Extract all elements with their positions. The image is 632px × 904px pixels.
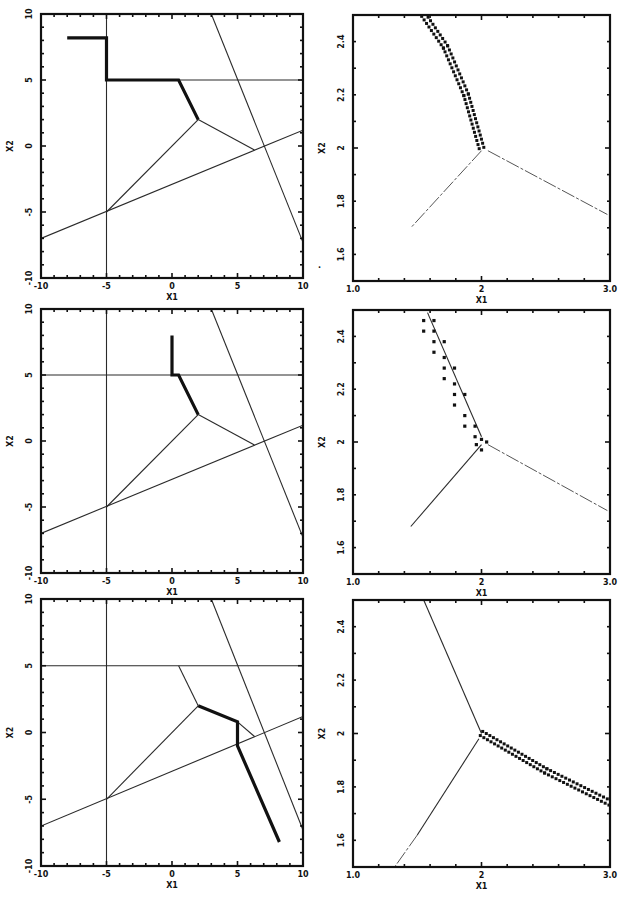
- x-tick-label: 3.0: [603, 871, 618, 880]
- x-axis-label: X1: [476, 296, 488, 305]
- series-branch-right: [198, 120, 254, 150]
- x-tick-label: 10: [297, 870, 309, 879]
- x-axis-label: X1: [476, 589, 488, 598]
- x-tick-label: -10: [34, 870, 49, 879]
- plot-area: [41, 309, 303, 573]
- series-branch-lower-left: [107, 415, 199, 507]
- x-tick-label: 0: [169, 870, 175, 879]
- y-tick-label: -10: [25, 270, 34, 285]
- y-tick-label: 1.8: [337, 779, 346, 794]
- x-tick-label: 10: [297, 577, 309, 586]
- series-branch-up-left: [424, 600, 482, 734]
- x-tick-label: 0: [169, 577, 175, 586]
- series-branch-lower-right: [488, 445, 608, 511]
- x-tick-label: 0: [169, 282, 175, 291]
- y-axis-label: X2: [6, 727, 15, 739]
- series-branch-lower-right: [488, 151, 608, 215]
- x-tick-label: 2: [479, 285, 485, 294]
- y-tick-label: 10: [25, 593, 34, 605]
- x-axis-label: X1: [166, 588, 178, 597]
- series-samples: [422, 319, 488, 452]
- y-tick-label: 2.2: [337, 673, 346, 687]
- series-branch-lower-left: [107, 706, 199, 800]
- series-branch-up-left: [420, 12, 485, 150]
- y-tick-label: 0: [25, 729, 34, 735]
- x-tick-label: 2: [479, 578, 485, 587]
- y-axis-label: X2: [318, 728, 327, 740]
- panel-row2-right: 1.023.02.42.221.81.6X1X2: [318, 310, 618, 598]
- plot-area: [411, 12, 608, 228]
- series-branch-lower-right: [479, 730, 613, 807]
- x-tick-label: 2: [479, 871, 485, 880]
- y-tick-label: 2.4: [337, 34, 346, 49]
- panel-row2-left: -10-505101050-5-10X1X2: [6, 303, 309, 597]
- series-branch-lower-left: [411, 151, 482, 228]
- x-axis-label: X1: [166, 293, 178, 302]
- y-tick-label: 10: [25, 8, 34, 20]
- y-tick-label: -10: [25, 565, 34, 580]
- x-axis-label: X1: [166, 881, 178, 890]
- panel-row1-right: 1.023.02.42.221.81.6X1X2: [318, 12, 618, 305]
- x-axis-label: X1: [476, 882, 488, 891]
- series-branch-lower-left-faint: [385, 835, 417, 880]
- x-tick-label: 1.0: [346, 285, 361, 294]
- y-tick-label: 5: [25, 663, 34, 669]
- series-branch-lower-left: [107, 120, 199, 212]
- y-tick-label: 1.8: [337, 194, 346, 209]
- y-tick-label: 2.4: [337, 619, 346, 634]
- y-tick-label: 1.6: [337, 833, 346, 848]
- series-branch-upper: [179, 666, 199, 706]
- series-trajectory: [198, 706, 279, 842]
- y-tick-label: -5: [25, 207, 34, 216]
- x-tick-label: -10: [34, 577, 49, 586]
- y-tick-label: 2: [337, 731, 346, 737]
- y-tick-label: 1.6: [337, 247, 346, 262]
- y-axis-label: X2: [318, 436, 327, 448]
- plot-area: [385, 600, 612, 880]
- y-axis-label: X2: [6, 140, 15, 152]
- panel-row3-right: 1.023.02.42.221.81.6X1X2: [318, 600, 618, 891]
- x-tick-label: 1.0: [346, 578, 361, 587]
- y-tick-label: 2: [337, 145, 346, 151]
- plot-area: [411, 313, 608, 527]
- x-tick-label: -10: [34, 282, 49, 291]
- y-tick-label: -5: [25, 794, 34, 803]
- y-tick-label: -10: [25, 858, 34, 873]
- y-tick-label: 5: [25, 77, 34, 83]
- x-tick-label: -5: [102, 577, 111, 586]
- series-constraint-steep: [211, 14, 303, 242]
- series-branch-right: [198, 415, 254, 445]
- y-tick-label: 2.2: [337, 382, 346, 396]
- axes-frame: [353, 15, 610, 281]
- series-fit-line: [428, 313, 482, 437]
- y-tick-label: -5: [25, 502, 34, 511]
- x-tick-label: 1.0: [346, 871, 361, 880]
- y-tick-label: 0: [25, 438, 34, 444]
- x-tick-label: 5: [235, 282, 241, 291]
- series-constraint-steep: [211, 599, 303, 830]
- series-branch-lower-left: [411, 445, 482, 527]
- series-trajectory: [67, 38, 198, 120]
- x-tick-label: -5: [102, 870, 111, 879]
- figure: -10-505101050-5-10X1X21.023.02.42.221.81…: [0, 0, 632, 904]
- y-tick-label: 0: [25, 143, 34, 149]
- panel-row3-left: -10-505101050-5-10X1X2: [6, 593, 309, 890]
- series-branch-lower-left: [417, 739, 479, 835]
- y-tick-label: 1.6: [337, 540, 346, 555]
- x-tick-label: -5: [102, 282, 111, 291]
- stray-mark: .: [318, 261, 321, 270]
- y-tick-label: 2.4: [337, 329, 346, 344]
- x-tick-label: 5: [235, 870, 241, 879]
- y-tick-label: 5: [25, 372, 34, 378]
- x-tick-label: 3.0: [603, 578, 618, 587]
- panel-row1-left: -10-505101050-5-10X1X2: [6, 8, 309, 302]
- plot-area: [41, 14, 303, 278]
- y-tick-label: 2.2: [337, 88, 346, 102]
- x-tick-label: 10: [297, 282, 309, 291]
- x-tick-label: 5: [235, 577, 241, 586]
- axes-frame: [353, 310, 610, 574]
- y-axis-label: X2: [6, 435, 15, 447]
- y-axis-label: X2: [318, 142, 327, 154]
- y-tick-label: 2: [337, 439, 346, 445]
- plot-area: [41, 599, 303, 866]
